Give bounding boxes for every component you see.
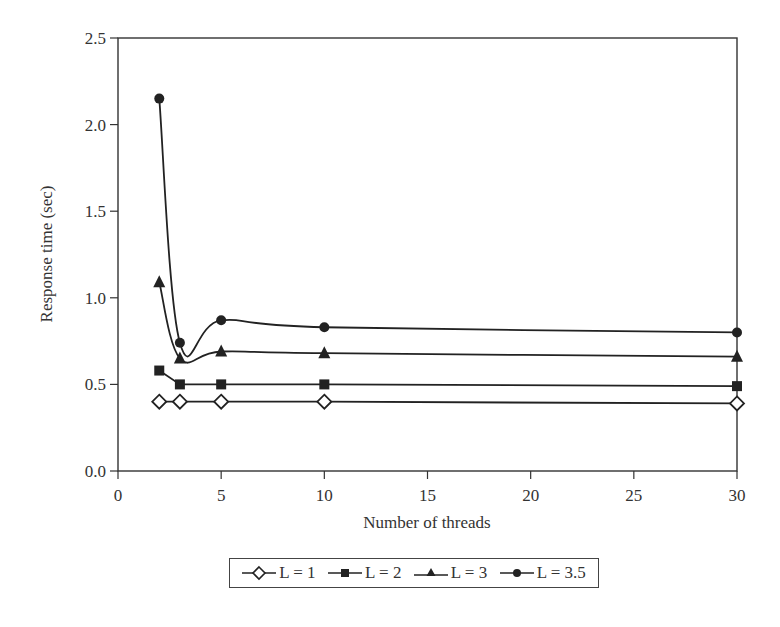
data-point (732, 327, 742, 337)
y-axis-title: Response time (sec) (37, 186, 56, 323)
x-tick-label: 15 (419, 486, 436, 505)
open-diamond-marker-icon (242, 565, 276, 581)
data-point (214, 395, 228, 409)
legend-label: L = 2 (365, 563, 401, 583)
y-tick-label: 0.0 (85, 462, 106, 481)
data-point (216, 379, 226, 389)
x-tick-label: 5 (217, 486, 226, 505)
x-tick-label: 0 (114, 486, 123, 505)
y-tick-label: 2.0 (85, 116, 106, 135)
data-point (154, 366, 164, 376)
series-l-2 (154, 366, 742, 392)
data-point (318, 346, 330, 358)
legend-label: L = 3.5 (537, 563, 586, 583)
legend-item-l3: L = 3 (414, 563, 487, 583)
series-l-3-5 (154, 94, 742, 357)
data-point (154, 94, 164, 104)
y-tick-label: 1.0 (85, 289, 106, 308)
data-point (216, 315, 226, 325)
data-point (319, 379, 329, 389)
filled-square-marker-icon (328, 565, 362, 581)
data-point (153, 275, 165, 287)
x-tick-label: 20 (522, 486, 539, 505)
filled-triangle-marker-icon (414, 565, 448, 581)
legend: L = 1 L = 2 L = 3 L = 3.5 (229, 558, 599, 588)
data-point (152, 395, 166, 409)
line-chart: 0.00.51.01.52.02.5 051015202530 Number o… (0, 0, 780, 627)
legend-item-l1: L = 1 (242, 563, 315, 583)
series-l-1 (152, 395, 744, 411)
x-tick-label: 25 (625, 486, 642, 505)
legend-item-l2: L = 2 (328, 563, 401, 583)
series-l-3 (153, 275, 743, 363)
data-point (732, 381, 742, 391)
series-layer (152, 94, 744, 411)
y-tick-label: 1.5 (85, 202, 106, 221)
y-tick-label: 2.5 (85, 29, 106, 48)
x-axis-title: Number of threads (363, 513, 490, 532)
legend-label: L = 1 (279, 563, 315, 583)
x-tick-label: 30 (729, 486, 746, 505)
x-axis: 051015202530 (114, 471, 746, 505)
data-point (319, 322, 329, 332)
data-point (175, 338, 185, 348)
y-tick-label: 0.5 (85, 375, 106, 394)
data-point (730, 396, 744, 410)
legend-item-l35: L = 3.5 (500, 563, 586, 583)
data-point (317, 395, 331, 409)
data-point (175, 379, 185, 389)
legend-label: L = 3 (451, 563, 487, 583)
plot-frame (118, 38, 737, 471)
data-point (731, 350, 743, 362)
x-tick-label: 10 (316, 486, 333, 505)
data-point (173, 395, 187, 409)
y-axis: 0.00.51.01.52.02.5 (85, 29, 118, 481)
filled-circle-marker-icon (500, 565, 534, 581)
